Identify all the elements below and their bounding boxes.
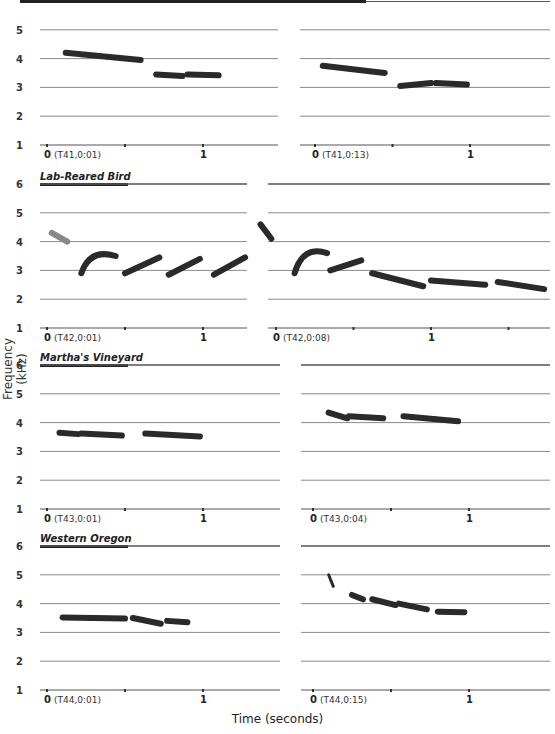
x-tick-label: 0 <box>44 149 51 160</box>
spectrogram-grid: 123450(T41,0:01)10(T41,0:13)1123456Lab-R… <box>0 0 555 734</box>
song-note <box>330 260 361 270</box>
x-tick-label: 1 <box>467 149 474 160</box>
y-tick-label: 3 <box>16 265 23 276</box>
song-note <box>399 604 427 610</box>
x-tick-label: 1 <box>466 694 473 705</box>
x-tick-label: 0 <box>44 513 51 524</box>
x-tick-label: 1 <box>200 694 207 705</box>
recording-label: (T44,0:01) <box>54 695 101 705</box>
y-tick-label: 5 <box>16 570 23 581</box>
y-tick-label: 1 <box>16 504 23 515</box>
song-note <box>323 66 385 73</box>
song-note <box>169 259 200 275</box>
song-note <box>81 434 122 436</box>
song-note <box>349 416 383 418</box>
song-note <box>261 224 272 238</box>
recording-label: (T44,0:15) <box>320 695 367 705</box>
y-tick-label: 2 <box>16 656 23 667</box>
x-tick-label: 0 <box>310 694 317 705</box>
y-tick-label: 2 <box>16 475 23 486</box>
y-tick-label: 1 <box>16 140 23 151</box>
recording-label: (T43,0:01) <box>54 514 101 524</box>
x-tick-label: 0 <box>273 332 280 343</box>
song-note <box>372 273 423 286</box>
y-tick-label: 3 <box>16 446 23 457</box>
recording-label: (T41,0:13) <box>322 150 369 160</box>
y-tick-label: 4 <box>16 237 23 248</box>
y-tick-label: 3 <box>16 82 23 93</box>
group-title: Lab-Reared Bird <box>40 171 131 182</box>
song-note <box>59 433 78 434</box>
song-note <box>52 233 68 242</box>
song-note <box>133 618 161 624</box>
song-note <box>156 74 183 75</box>
y-tick-label: 5 <box>16 25 23 36</box>
song-note <box>372 599 395 605</box>
x-axis-label: Time (seconds) <box>0 712 555 726</box>
recording-label: (T43,0:04) <box>320 514 367 524</box>
panel-right: 0(T44,0:15)1 <box>301 546 550 705</box>
recording-label: (T42,0:01) <box>54 333 101 343</box>
song-note <box>403 416 458 421</box>
spectrogram-figure: 123450(T41,0:01)10(T41,0:13)1123456Lab-R… <box>0 0 555 734</box>
song-note <box>438 612 465 613</box>
y-axis-label: Frequency (kHz) <box>1 324 29 414</box>
panel-right: 0(T42,0:08)1 <box>261 184 551 343</box>
song-note <box>352 595 363 599</box>
song-note <box>329 413 348 419</box>
panel-left: 0(T44,0:01)1 <box>40 546 280 705</box>
y-tick-label: 4 <box>16 418 23 429</box>
panel-left: 0(T41,0:01)1 <box>40 30 278 160</box>
x-tick-label: 1 <box>200 149 207 160</box>
song-note <box>214 257 245 274</box>
x-tick-label: 1 <box>428 332 435 343</box>
song-note <box>187 74 218 75</box>
group-title: Martha's Vineyard <box>40 352 144 363</box>
row-3: 123456Martha's Vineyard0(T43,0:01)10(T43… <box>16 352 550 524</box>
y-tick-label: 2 <box>16 111 23 122</box>
panel-left: 0(T42,0:01)1 <box>40 184 247 343</box>
song-note <box>167 621 187 622</box>
x-tick-label: 1 <box>200 513 207 524</box>
y-tick-label: 5 <box>16 208 23 219</box>
row-2: 123456Lab-Reared Bird0(T42,0:01)10(T42,0… <box>16 171 550 343</box>
song-note <box>63 617 125 618</box>
row-1: 123450(T41,0:01)10(T41,0:13)1 <box>16 0 550 160</box>
recording-label: (T42,0:08) <box>283 333 330 343</box>
x-tick-label: 0 <box>310 513 317 524</box>
x-tick-label: 1 <box>466 513 473 524</box>
y-tick-label: 4 <box>16 599 23 610</box>
song-note <box>498 282 545 289</box>
y-tick-label: 2 <box>16 294 23 305</box>
panel-right: 0(T41,0:13)1 <box>300 2 550 161</box>
row-4: 123456Western Oregon0(T44,0:01)10(T44,0:… <box>16 533 550 705</box>
song-note <box>329 575 334 587</box>
x-tick-label: 0 <box>312 149 319 160</box>
song-note <box>145 434 200 437</box>
song-note <box>125 257 159 273</box>
x-tick-label: 0 <box>44 332 51 343</box>
song-note <box>436 83 467 84</box>
group-title: Western Oregon <box>40 533 132 544</box>
x-tick-label: 0 <box>44 694 51 705</box>
y-tick-label: 3 <box>16 627 23 638</box>
panel-left: 0(T43,0:01)1 <box>40 365 280 524</box>
y-tick-label: 1 <box>16 685 23 696</box>
panel-right: 0(T43,0:04)1 <box>301 365 550 524</box>
song-note <box>400 83 431 86</box>
y-tick-label: 4 <box>16 54 23 65</box>
song-note <box>431 280 485 284</box>
y-tick-label: 6 <box>16 179 23 190</box>
y-tick-label: 6 <box>16 541 23 552</box>
x-tick-label: 1 <box>200 332 207 343</box>
recording-label: (T41,0:01) <box>54 150 101 160</box>
